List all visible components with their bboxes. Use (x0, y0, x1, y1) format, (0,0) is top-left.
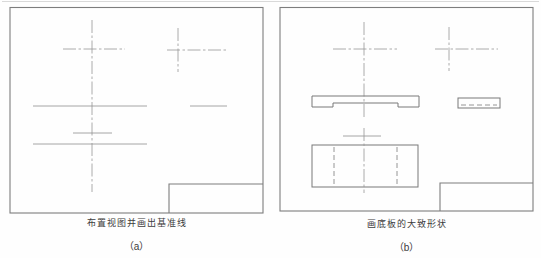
panel-b-top-view (312, 145, 418, 187)
figure: 布置视图并画出基准线 画底板的大致形状 （a） （b） (0, 0, 541, 258)
panel-b-border (280, 8, 533, 212)
panel-a-border (10, 8, 263, 214)
caption-panel-b: 画底板的大致形状 (280, 217, 533, 230)
caption-panel-a: 布置视图并画出基准线 (10, 216, 263, 229)
label-panel-a: （a） (10, 238, 263, 253)
panel-b-side-view (458, 98, 500, 108)
panel-b-baseplate-front-view (312, 96, 419, 107)
label-panel-b: （b） (280, 239, 533, 254)
panel-b-titleblock (440, 183, 533, 211)
panel-a-titleblock (169, 184, 263, 213)
